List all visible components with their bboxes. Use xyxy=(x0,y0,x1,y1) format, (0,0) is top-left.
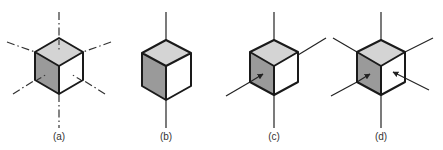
panel-label-b: (b) xyxy=(151,131,181,142)
cube xyxy=(35,38,83,94)
axis-upper-right xyxy=(405,38,433,52)
panel-label-c: (c) xyxy=(259,131,289,142)
axis-lower-left xyxy=(331,82,357,96)
panel-label-a: (a) xyxy=(44,131,74,142)
cube xyxy=(142,40,191,100)
panel-a xyxy=(7,12,111,128)
cube-diagram-figure xyxy=(0,0,443,150)
panel-b xyxy=(142,12,191,128)
axis-upper-left xyxy=(333,38,357,52)
cube xyxy=(250,40,298,95)
axis-lower-left xyxy=(226,82,250,96)
panel-label-d: (d) xyxy=(366,131,396,142)
axis-lower-right xyxy=(405,78,429,90)
panel-c xyxy=(226,12,326,128)
cube xyxy=(357,40,405,95)
panel-d xyxy=(331,12,433,128)
axis-upper-right xyxy=(298,38,326,55)
